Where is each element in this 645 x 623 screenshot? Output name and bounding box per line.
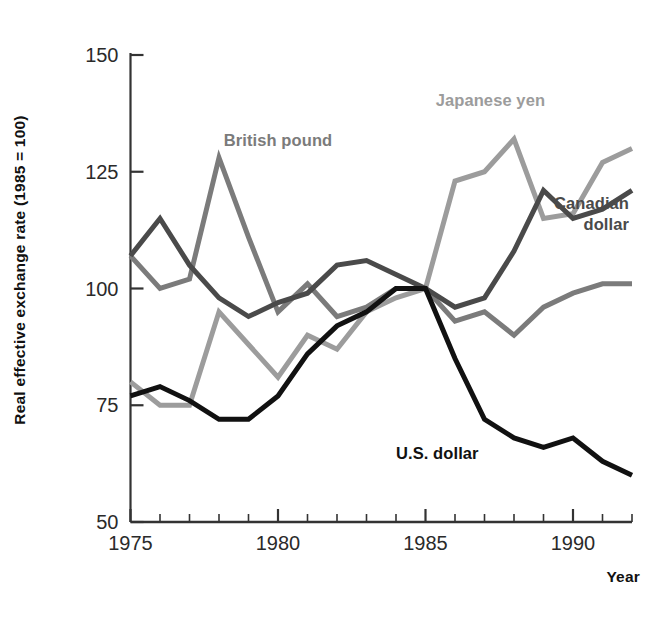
series-label: Japanese yen <box>436 91 545 109</box>
chart-figure: Real effective exchange rate (1985 = 100… <box>0 0 645 623</box>
series-lines <box>131 139 633 475</box>
y-tick-label: 125 <box>85 161 118 183</box>
series-line <box>131 289 633 476</box>
x-tick-label: 1990 <box>551 532 596 554</box>
y-tick-label: 150 <box>85 44 118 66</box>
x-tick-labels: 1975198019851990 <box>108 532 595 554</box>
series-label: U.S. dollar <box>396 444 479 462</box>
series-label: Canadian <box>554 194 629 212</box>
x-tick-label: 1975 <box>108 532 153 554</box>
y-tick-labels: 5075100125150 <box>85 44 118 533</box>
x-tick-label: 1985 <box>403 532 448 554</box>
series-line <box>131 139 633 405</box>
y-tick-label: 100 <box>85 278 118 300</box>
y-tick-label: 50 <box>96 511 118 533</box>
x-tick-label: 1980 <box>256 532 301 554</box>
series-label: British pound <box>224 131 333 149</box>
axes-group <box>131 53 633 522</box>
y-tick-label: 75 <box>96 394 118 416</box>
line-chart-plot: 5075100125150 1975198019851990 British p… <box>0 0 645 623</box>
series-label: dollar <box>584 215 630 233</box>
series-line <box>131 158 633 335</box>
